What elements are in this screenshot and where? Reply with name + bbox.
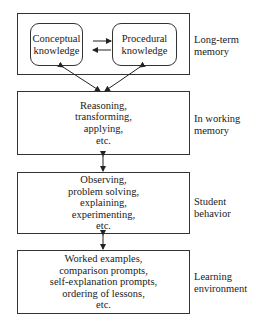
arrow-conceptual-working: [63, 67, 100, 91]
connector-arrows: [0, 0, 256, 327]
arrow-procedural-working: [105, 67, 140, 91]
